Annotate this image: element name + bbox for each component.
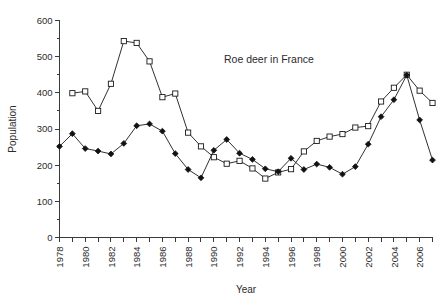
data-point-marker <box>250 166 255 171</box>
data-point-marker <box>211 155 216 160</box>
x-axis-tick-label: 1982 <box>106 247 117 268</box>
chart-title-annotation: Roe deer in France <box>224 53 314 65</box>
data-point-marker <box>327 164 333 170</box>
data-point-marker <box>95 108 100 113</box>
data-point-marker <box>147 121 153 127</box>
y-axis-tick-label: 300 <box>37 123 53 134</box>
data-point-marker <box>366 124 371 129</box>
data-point-marker <box>134 40 139 45</box>
data-point-marker <box>353 125 358 130</box>
y-axis-tick-label: 500 <box>37 51 53 62</box>
data-point-marker <box>430 100 435 105</box>
x-axis-tick-label: 2004 <box>389 247 400 268</box>
y-axis-tick-label: 200 <box>37 160 53 171</box>
data-point-marker <box>83 89 88 94</box>
data-point-marker <box>314 138 319 143</box>
series-polyline <box>60 75 433 178</box>
x-axis-tick-label: 1980 <box>80 247 91 268</box>
data-point-marker <box>365 141 371 147</box>
x-axis-tick-label: 1984 <box>131 247 142 268</box>
data-point-marker <box>417 117 423 123</box>
x-axis-tick-label: 1986 <box>157 247 168 268</box>
data-point-marker <box>340 171 346 177</box>
data-point-marker <box>301 149 306 154</box>
data-point-marker <box>430 157 436 163</box>
data-point-marker <box>352 164 358 170</box>
data-point-marker <box>198 175 204 181</box>
x-axis-title: Year <box>236 284 257 295</box>
y-axis-tick-label: 600 <box>37 15 53 26</box>
data-point-marker <box>237 158 242 163</box>
data-point-marker <box>224 161 229 166</box>
data-point-marker <box>159 128 165 134</box>
data-point-marker <box>288 167 293 172</box>
data-point-marker <box>160 95 165 100</box>
y-axis-title: Population <box>7 105 18 152</box>
chart-figure: 0100200300400500600197819801982198419861… <box>0 0 437 300</box>
line-chart: 0100200300400500600197819801982198419861… <box>0 0 437 300</box>
x-axis-tick-label: 1978 <box>54 247 65 268</box>
x-axis-tick-label: 1996 <box>286 247 297 268</box>
data-point-marker <box>186 130 191 135</box>
x-axis-tick-label: 2002 <box>363 247 374 268</box>
data-point-marker <box>417 88 422 93</box>
x-axis-tick-label: 2000 <box>337 247 348 268</box>
x-axis-tick-label: 1994 <box>260 247 271 268</box>
y-axis-tick-label: 400 <box>37 87 53 98</box>
data-point-marker <box>378 99 383 104</box>
data-point-marker <box>121 39 126 44</box>
x-axis-tick-label: 1992 <box>234 247 245 268</box>
x-axis-tick-label: 1998 <box>311 247 322 268</box>
x-axis-tick-label: 1988 <box>183 247 194 268</box>
y-axis-tick-label: 0 <box>47 232 52 243</box>
data-point-marker <box>340 131 345 136</box>
x-axis-tick-label: 2006 <box>414 247 425 268</box>
x-axis-tick-label: 1990 <box>208 247 219 268</box>
data-point-marker <box>327 134 332 139</box>
data-point-marker <box>95 148 101 154</box>
data-point-marker <box>108 81 113 86</box>
data-point-marker <box>147 59 152 64</box>
data-point-marker <box>173 91 178 96</box>
y-axis-tick-label: 100 <box>37 196 53 207</box>
data-point-marker <box>391 85 396 90</box>
data-point-marker <box>314 161 320 167</box>
data-point-marker <box>263 176 268 181</box>
data-point-marker <box>70 91 75 96</box>
data-point-marker <box>198 144 203 149</box>
